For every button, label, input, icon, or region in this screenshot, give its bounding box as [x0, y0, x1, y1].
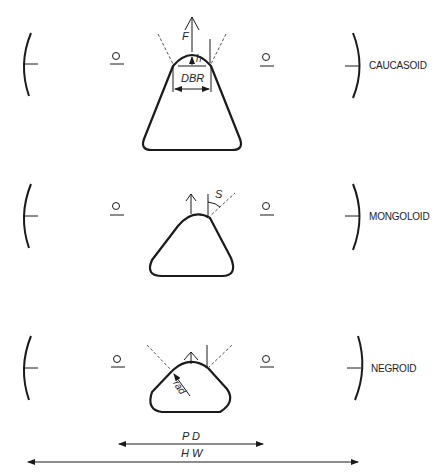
diagram-canvas	[0, 0, 446, 474]
h-label: h	[196, 53, 202, 64]
s-label: S	[215, 188, 222, 200]
row-label-mongoloid: MONGOLOID	[369, 211, 429, 222]
nose-outline-caucasoid	[143, 55, 241, 150]
nose-outline-negroid	[150, 362, 230, 412]
left-eye-marker	[110, 53, 124, 65]
nose-outline-mongoloid	[150, 214, 233, 276]
right-eye-marker	[260, 203, 274, 216]
row-mongoloid	[24, 184, 360, 276]
left-eye-marker	[110, 203, 124, 216]
row-label-caucasoid: CAUCASOID	[369, 60, 427, 71]
right-eye-marker	[260, 356, 274, 368]
right-eye-marker	[260, 54, 274, 67]
row-negroid	[24, 336, 362, 412]
left-eye-marker	[111, 356, 125, 368]
pd-label: P D	[182, 430, 200, 442]
s-angle-arc	[208, 202, 220, 207]
row-label-negroid: NEGROID	[371, 363, 416, 374]
hw-label: H W	[181, 447, 202, 459]
f-label: F	[182, 30, 189, 42]
right-head-bracket	[353, 184, 360, 250]
dbr-label: DBR	[181, 72, 204, 84]
